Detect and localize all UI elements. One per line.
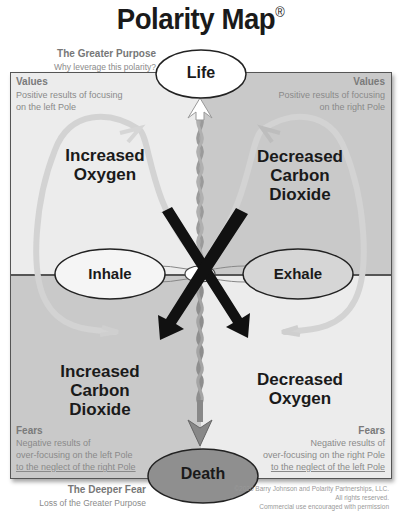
bottom-right-fears-heading: Fears	[358, 425, 385, 437]
top-right-content-line-2: Carbon	[240, 166, 360, 185]
top-left-values-desc-2: on the left Pole	[16, 101, 76, 113]
top-right-values-desc-2: on the right Pole	[319, 101, 385, 113]
helix-down-arrow-icon	[188, 282, 212, 446]
exhale-label: Exhale	[243, 265, 353, 282]
life-label: Life	[156, 64, 246, 82]
copyright-line-1: ©2020 Barry Johnson and Polarity Partner…	[234, 484, 389, 493]
bottom-left-content-line-3: Dioxide	[45, 400, 155, 419]
loop-arrowhead-top-right-icon	[262, 128, 280, 142]
bottom-right-fears-desc-3: to the neglect of the left Pole	[271, 461, 385, 473]
bottom-left-content: Increased Carbon Dioxide	[45, 362, 155, 419]
copyright-line-2: All rights reserved.	[234, 493, 389, 502]
death-label: Death	[153, 465, 253, 483]
top-right-content: Decreased Carbon Dioxide	[240, 147, 360, 204]
bottom-left-content-line-2: Carbon	[45, 381, 155, 400]
inhale-label: Inhale	[55, 265, 165, 282]
bottom-left-fears-desc-1: Negative results of	[16, 437, 91, 449]
copyright-line-3: Commercial use encouraged with permissio…	[234, 502, 389, 511]
bottom-left-fears-desc-3: to the neglect of the right Pole	[16, 461, 136, 473]
top-right-content-line-3: Dioxide	[240, 185, 360, 204]
bottom-right-content: Decreased Oxygen	[245, 370, 355, 408]
greater-purpose-subtitle: Why leverage this polarity?	[28, 61, 156, 73]
bottom-right-fears-desc-2: over-focusing on the right Pole	[263, 449, 385, 461]
top-right-values-heading: Values	[353, 76, 385, 88]
bottom-right-fears-desc-1: Negative results of	[310, 437, 385, 449]
bottom-right-content-line-1: Decreased	[245, 370, 355, 389]
top-left-values-heading: Values	[16, 76, 48, 88]
top-left-content-line-1: Increased	[50, 146, 160, 165]
top-left-values-desc-1: Positive results of focusing	[16, 89, 123, 101]
top-left-content-line-2: Oxygen	[50, 165, 160, 184]
deeper-fear-title: The Deeper Fear	[30, 484, 146, 495]
copyright-notice: ©2020 Barry Johnson and Polarity Partner…	[234, 484, 389, 511]
x-cross-arrows-icon	[158, 207, 250, 340]
greater-purpose-title: The Greater Purpose	[38, 48, 156, 59]
top-right-values-desc-1: Positive results of focusing	[278, 89, 385, 101]
bottom-left-fears-desc-2: over-focusing on the left Pole	[16, 449, 133, 461]
top-right-content-line-1: Decreased	[240, 147, 360, 166]
bottom-left-content-line-1: Increased	[45, 362, 155, 381]
top-left-content: Increased Oxygen	[50, 146, 160, 184]
loop-arrowhead-top-left-icon	[120, 128, 140, 142]
bottom-right-content-line-2: Oxygen	[245, 389, 355, 408]
bottom-left-fears-heading: Fears	[16, 425, 43, 437]
deeper-fear-subtitle: Loss of the Greater Purpose	[20, 497, 146, 509]
